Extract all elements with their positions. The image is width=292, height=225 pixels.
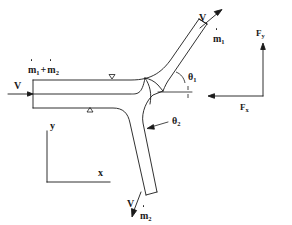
mdot-outlet2-symbol: m2 [140, 211, 152, 221]
mdot-m2-symbol: m2 [47, 65, 59, 75]
outlet-lower-mass-flow-label: m2 [140, 206, 152, 222]
pipe-outline [33, 19, 207, 195]
branch1-right-edge [163, 24, 207, 91]
theta1-label: θ1 [188, 72, 196, 82]
theta2-label: θ2 [172, 116, 180, 126]
junction-crotch [145, 78, 163, 91]
inlet-velocity-label: V [14, 81, 21, 91]
inlet-mass-flow-label: m1+m2 [28, 60, 59, 76]
mass-flow-plus-operator: + [40, 64, 48, 75]
marker-top-triangle [109, 75, 115, 80]
fx-force-arrow [208, 94, 263, 99]
fy-force-label: Fy [256, 29, 265, 38]
axis-x-label: x [98, 168, 103, 178]
outlet-lower-velocity-label: V [127, 199, 134, 209]
outlet-upper-mass-flow-label: m1 [213, 29, 225, 45]
fx-force-label: Fx [240, 103, 249, 112]
angle-datum-line [158, 86, 192, 98]
axis-y-label: y [50, 121, 55, 131]
theta1-angle-indicator [176, 72, 185, 83]
mdot-m1-symbol: m1 [28, 65, 40, 75]
outlet-upper-velocity-label: V [199, 13, 206, 23]
inlet-velocity-arrow [8, 92, 33, 96]
branch2-right-edge [143, 91, 163, 192]
crotch-fillet [145, 78, 151, 104]
branch2-end-cap [146, 192, 157, 195]
theta2-angle-indicator [147, 122, 168, 129]
fy-force-arrow [261, 43, 266, 96]
mdot-outlet1-symbol: m1 [213, 34, 225, 44]
figure-root: m1+m2 V V m1 V m2 θ1 θ2 Fy Fx y x [0, 0, 292, 225]
